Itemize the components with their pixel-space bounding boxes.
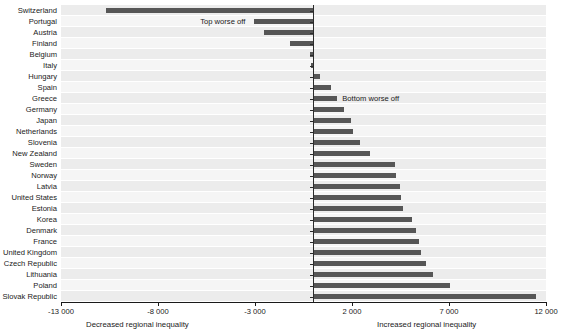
category-label: Lithuania xyxy=(26,271,57,279)
category-label: Denmark xyxy=(26,227,57,235)
category-tick xyxy=(310,220,313,221)
category-axis-labels: SwitzerlandPortugalAustriaFinlandBelgium… xyxy=(0,5,57,302)
bar xyxy=(313,283,450,288)
category-label: Slovak Republic xyxy=(3,293,57,301)
row-band xyxy=(61,82,546,92)
bar xyxy=(313,239,419,244)
row-band xyxy=(61,203,546,213)
category-tick xyxy=(310,209,313,210)
row-band xyxy=(61,280,546,290)
bar xyxy=(313,294,536,299)
category-tick xyxy=(310,77,313,78)
x-axis-tick-label: -13 000 xyxy=(48,307,74,316)
category-tick xyxy=(310,143,313,144)
category-tick xyxy=(310,121,313,122)
row-band xyxy=(61,126,546,136)
category-label: Austria xyxy=(33,29,57,37)
bar xyxy=(313,195,401,200)
row-band xyxy=(61,93,546,103)
category-label: Czech Republic xyxy=(4,260,57,268)
bar xyxy=(313,250,421,255)
category-tick xyxy=(310,33,313,34)
bar xyxy=(313,74,320,79)
bar xyxy=(313,184,400,189)
row-band xyxy=(61,170,546,180)
category-tick xyxy=(310,44,313,45)
row-band xyxy=(61,236,546,246)
bar xyxy=(313,272,433,277)
x-axis-caption-left: Decreased regional inequality xyxy=(86,320,189,329)
category-label: Netherlands xyxy=(16,128,57,136)
x-axis-caption-right: Increased regional inequality xyxy=(377,320,476,329)
category-tick xyxy=(310,154,313,155)
category-label: Slovenia xyxy=(28,139,57,147)
bar xyxy=(313,118,351,123)
chart-annotation: Top worse off xyxy=(200,17,245,26)
category-tick xyxy=(310,198,313,199)
category-label: Greece xyxy=(32,95,57,103)
category-label: Finland xyxy=(32,40,57,48)
row-band xyxy=(61,192,546,202)
category-tick xyxy=(310,275,313,276)
category-label: Germany xyxy=(26,106,57,114)
row-band xyxy=(61,148,546,158)
plot-area xyxy=(61,5,546,302)
bar xyxy=(313,96,337,101)
x-axis-tick xyxy=(352,302,353,306)
bar xyxy=(264,30,313,35)
row-band xyxy=(61,115,546,125)
bar xyxy=(254,19,313,24)
category-label: Italy xyxy=(43,62,57,70)
x-axis-tick-label: 12 000 xyxy=(534,307,557,316)
category-label: France xyxy=(33,238,57,246)
bar xyxy=(313,261,426,266)
category-label: United States xyxy=(11,194,57,202)
bar xyxy=(313,173,395,178)
category-label: Latvia xyxy=(37,183,57,191)
bar xyxy=(313,129,353,134)
bar xyxy=(313,206,403,211)
category-label: Spain xyxy=(38,84,57,92)
row-band xyxy=(61,247,546,257)
row-band xyxy=(61,225,546,235)
regional-inequality-bar-chart: SwitzerlandPortugalAustriaFinlandBelgium… xyxy=(0,0,562,336)
x-axis-tick xyxy=(255,302,256,306)
category-tick xyxy=(310,88,313,89)
x-axis-tick xyxy=(158,302,159,306)
category-tick xyxy=(310,165,313,166)
x-axis-tick xyxy=(546,302,547,306)
x-axis-line xyxy=(61,302,546,303)
bar xyxy=(313,217,412,222)
category-tick xyxy=(310,110,313,111)
row-band xyxy=(61,269,546,279)
category-label: Poland xyxy=(33,282,57,290)
category-tick xyxy=(310,187,313,188)
bar xyxy=(313,140,360,145)
category-tick xyxy=(310,99,313,100)
category-label: Belgium xyxy=(30,51,57,59)
category-label: Norway xyxy=(31,172,57,180)
category-tick xyxy=(310,132,313,133)
bar xyxy=(313,151,370,156)
category-label: Sweden xyxy=(30,161,57,169)
category-tick xyxy=(310,253,313,254)
row-band xyxy=(61,137,546,147)
category-tick xyxy=(310,11,313,12)
bar xyxy=(106,8,314,13)
category-label: Portugal xyxy=(29,18,57,26)
category-tick xyxy=(310,264,313,265)
x-axis-tick-label: -3 000 xyxy=(244,307,266,316)
category-tick xyxy=(310,55,313,56)
category-label: Switzerland xyxy=(18,7,57,15)
bar xyxy=(313,162,394,167)
category-tick xyxy=(310,231,313,232)
x-axis-tick-label: -8 000 xyxy=(147,307,169,316)
category-tick xyxy=(310,297,313,298)
bar xyxy=(313,85,330,90)
row-band xyxy=(61,258,546,268)
category-label: Korea xyxy=(37,216,57,224)
x-axis-tick-label: 7 000 xyxy=(439,307,458,316)
category-label: United Kingdom xyxy=(3,249,57,257)
category-tick xyxy=(310,242,313,243)
row-band xyxy=(61,60,546,70)
